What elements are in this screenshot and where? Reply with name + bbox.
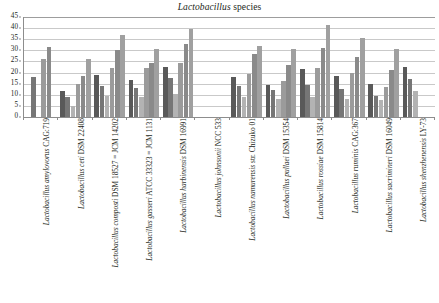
bar <box>291 49 296 117</box>
x-category-label-roman: DSM 16991 <box>179 118 188 156</box>
bar-group <box>93 17 127 117</box>
x-category-label: Lactobacillus ruminis CAG:367 <box>352 118 360 213</box>
bar <box>154 49 159 117</box>
x-category-label-italic: Lactobacillus gasseri <box>145 197 154 260</box>
bar <box>76 84 81 117</box>
y-tick-label: 35 <box>11 36 18 43</box>
bar <box>413 91 418 117</box>
bar <box>231 77 236 117</box>
y-tick-mark <box>19 28 21 29</box>
bar <box>281 81 286 117</box>
y-tick-label: 20 <box>11 69 18 76</box>
x-category-label: Lactobacillus composti DSM 18527 = JCM 1… <box>112 118 120 268</box>
x-category-label-italic: Lactobacillus harbinensis <box>179 156 188 233</box>
bar <box>237 86 242 117</box>
y-tick-mark <box>19 39 21 40</box>
bar <box>360 38 365 117</box>
y-tick-mark <box>19 61 21 62</box>
bar <box>120 35 125 117</box>
y-tick-mark <box>19 117 21 118</box>
x-tick-mark <box>92 117 93 120</box>
bar-group <box>161 17 195 117</box>
bar <box>355 57 360 117</box>
x-category-label-roman: DSM 22408 <box>77 118 86 156</box>
x-tick-mark <box>229 117 230 120</box>
bar <box>81 76 86 117</box>
bar <box>408 79 413 117</box>
bar <box>384 87 389 117</box>
x-category-label-roman: ATCC 33323 = JCM 1131 <box>145 118 154 197</box>
x-category-label-roman: str. Chizuko 01 <box>248 118 257 165</box>
bar <box>310 97 315 117</box>
bar <box>326 25 331 117</box>
bar <box>100 86 105 117</box>
bar <box>115 50 120 117</box>
x-category-label-italic: Lactobacillus namurensis <box>248 165 257 241</box>
plot-area <box>23 17 435 118</box>
x-tick-mark <box>400 117 401 120</box>
x-category-label: Lactobacillus pullaei DSM 15354 <box>283 118 291 219</box>
chart-title-roman: species <box>231 2 262 12</box>
bar <box>129 80 134 117</box>
x-tick-mark <box>57 117 58 120</box>
x-tick-mark <box>331 117 332 120</box>
y-axis: 051015202530354045 <box>0 17 21 117</box>
y-tick-label: 40 <box>11 25 18 32</box>
x-tick-mark <box>23 117 24 120</box>
x-tick-mark <box>126 117 127 120</box>
x-category-label: Lactobacillus rossiae DSM 15814 <box>317 118 325 219</box>
bar <box>389 70 394 117</box>
bar-group <box>195 17 229 117</box>
y-tick-label: 45 <box>11 13 18 20</box>
x-category-label-italic: Lactobacillus rossiae <box>316 156 325 219</box>
bar-group <box>230 17 264 117</box>
y-tick-mark <box>19 72 21 73</box>
bar-group <box>58 17 92 117</box>
y-tick-mark <box>19 94 21 95</box>
bar <box>334 76 339 117</box>
bar <box>41 59 46 117</box>
bar-group <box>127 17 161 117</box>
bar <box>178 63 183 117</box>
x-category-label: Lactobacillus shenzhenensis LY-73 <box>420 118 428 222</box>
bar-chart-figure: Lactobacillus species 051015202530354045… <box>0 0 439 303</box>
bar <box>339 89 344 117</box>
x-axis: Lactobacillus amylovorus CAG:719Lactobac… <box>23 118 434 303</box>
bar <box>242 97 247 117</box>
x-category-label: Lactobacillus namurensis str. Chizuko 01 <box>249 118 257 241</box>
bars-layer <box>24 17 435 117</box>
x-category-label: Lactobacillus gasseri ATCC 33323 = JCM 1… <box>146 118 154 261</box>
bar <box>189 29 194 117</box>
bar <box>163 67 168 117</box>
bar <box>60 91 65 117</box>
x-category-label: Lactobacillus harbinensis DSM 16991 <box>180 118 188 233</box>
bar-group <box>367 17 401 117</box>
x-category-label-roman: DSM 15814 <box>316 118 325 156</box>
x-category-label-roman: LY-73 <box>419 118 428 138</box>
x-category-label-roman: CAG:367 <box>351 118 360 149</box>
x-tick-mark <box>366 117 367 120</box>
bar-group <box>24 17 58 117</box>
y-tick-mark <box>19 17 21 18</box>
x-category-label-roman: DSM 15354 <box>282 118 291 156</box>
x-category-label: Lactobacillus ceti DSM 22408 <box>78 118 86 209</box>
x-tick-mark <box>434 117 435 120</box>
x-category-label: Lactobacillus sacrimineri DSM 16049 <box>386 118 394 232</box>
bar <box>144 68 149 117</box>
bar <box>271 90 276 117</box>
bar <box>134 88 139 117</box>
bar <box>31 77 36 117</box>
x-category-label-roman: NCC 533 <box>214 118 223 148</box>
bar <box>110 68 115 117</box>
bar <box>47 47 52 117</box>
bar <box>252 54 257 117</box>
x-category-label-italic: Lactobacillus johnsonii <box>214 148 223 218</box>
bar <box>379 100 384 117</box>
bar-group <box>264 17 298 117</box>
x-category-label-italic: Lactobacillus pullaei <box>282 156 291 219</box>
bar <box>403 67 408 117</box>
x-category-label-italic: Lactobacillus sacrimineri <box>385 156 394 232</box>
x-category-label: Lactobacillus amylovorus CAG:719 <box>43 118 51 225</box>
bar <box>184 44 189 117</box>
bar <box>139 97 144 117</box>
